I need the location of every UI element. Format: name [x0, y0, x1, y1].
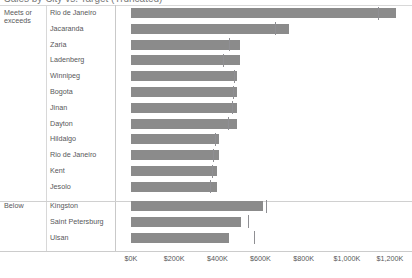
bar[interactable]: [131, 24, 289, 34]
bar[interactable]: [131, 119, 237, 129]
reference-line[interactable]: [212, 165, 213, 178]
reference-line[interactable]: [232, 101, 233, 114]
group-column-divider: [46, 5, 47, 251]
x-axis-tick-label: $1,000K: [333, 254, 360, 263]
category-label: Jacaranda: [50, 25, 84, 33]
reference-line[interactable]: [210, 180, 211, 193]
x-axis-tick-label: $400K: [207, 254, 228, 263]
group-label-column: Meets orexceedsBelow: [0, 5, 46, 251]
category-label: Zaria: [50, 41, 66, 49]
x-axis-tick-label: $600K: [250, 254, 271, 263]
category-label: Winnipeg: [50, 72, 80, 80]
reference-line[interactable]: [234, 70, 235, 83]
category-label: Ladenberg: [50, 56, 84, 64]
reference-line[interactable]: [266, 200, 267, 213]
category-label: Dayton: [50, 120, 73, 128]
x-axis-tick-label: $1,200K: [377, 254, 404, 263]
group-label: Meets orexceeds: [4, 9, 46, 26]
bar[interactable]: [131, 217, 241, 227]
bar[interactable]: [131, 40, 240, 50]
category-label: Kingston: [50, 202, 78, 210]
bar[interactable]: [131, 103, 237, 113]
category-label: Jinan: [50, 104, 67, 112]
bar[interactable]: [131, 182, 217, 192]
category-label-column: Rio de JaneiroJacarandaZariaLadenbergWin…: [46, 5, 114, 251]
reference-line[interactable]: [233, 86, 234, 99]
reference-line[interactable]: [254, 231, 255, 244]
reference-line[interactable]: [228, 117, 229, 130]
bar[interactable]: [131, 233, 229, 243]
page-title: Sales by City vs. Target (Truncated): [4, 0, 162, 4]
reference-line[interactable]: [378, 7, 379, 20]
group-label-line: exceeds: [4, 17, 46, 25]
bar[interactable]: [131, 87, 237, 97]
x-axis: $0K$200K$400K$600K$800K$1,000K$1,200K: [0, 251, 412, 278]
plot-area: [115, 5, 412, 251]
category-label: Hildalgo: [50, 135, 76, 143]
reference-line[interactable]: [215, 133, 216, 146]
reference-line[interactable]: [223, 54, 224, 67]
x-axis-tick-label: $200K: [164, 254, 185, 263]
category-label: Ulsan: [50, 234, 68, 242]
bar[interactable]: [131, 150, 219, 160]
category-label: Rio de Janeiro: [50, 9, 96, 17]
bar[interactable]: [131, 134, 219, 144]
x-axis-tick-label: $0K: [125, 254, 138, 263]
bar-chart: Sales by City vs. Target (Truncated) Mee…: [0, 0, 412, 278]
bar[interactable]: [131, 8, 396, 18]
bar[interactable]: [131, 71, 237, 81]
category-label: Jesolo: [50, 183, 71, 191]
reference-line[interactable]: [229, 38, 230, 51]
reference-line[interactable]: [275, 22, 276, 35]
bar[interactable]: [131, 201, 263, 211]
reference-line[interactable]: [213, 149, 214, 162]
category-label: Rio de Janeiro: [50, 151, 96, 159]
bar[interactable]: [131, 166, 217, 176]
category-label: Bogota: [50, 88, 73, 96]
group-label: Below: [4, 202, 46, 210]
category-label: Kent: [50, 167, 65, 175]
category-label: Saint Petersburg: [50, 218, 104, 226]
x-axis-tick-label: $800K: [293, 254, 314, 263]
reference-line[interactable]: [248, 215, 249, 228]
